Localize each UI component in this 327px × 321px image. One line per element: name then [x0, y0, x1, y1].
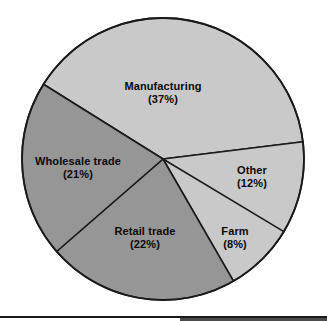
slice-label-name: Manufacturing	[124, 80, 201, 92]
pie-slice-label-retail-trade: Retail trade(22%)	[114, 225, 175, 251]
slice-label-percent: (21%)	[35, 168, 121, 181]
slice-label-percent: (22%)	[114, 238, 175, 251]
pie-slice-label-wholesale-trade: Wholesale trade(21%)	[35, 155, 121, 181]
pie-chart: Manufacturing(37%)Other(12%)Farm(8%)Reta…	[0, 0, 327, 321]
slice-label-name: Farm	[221, 225, 248, 237]
slice-label-name: Wholesale trade	[35, 155, 121, 167]
pie-slice-label-manufacturing: Manufacturing(37%)	[124, 80, 201, 106]
slice-label-percent: (8%)	[221, 238, 248, 251]
slice-label-percent: (37%)	[124, 93, 201, 106]
pie-slice-label-other: Other(12%)	[237, 164, 267, 190]
pie-slice-label-farm: Farm(8%)	[221, 225, 248, 251]
slice-label-name: Retail trade	[114, 225, 175, 237]
slice-label-percent: (12%)	[237, 177, 267, 190]
slice-label-name: Other	[237, 164, 267, 176]
